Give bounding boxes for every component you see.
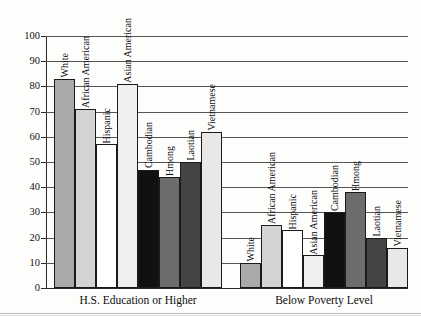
bar-label: Asian American [123, 18, 133, 83]
bar-label: Laotian [372, 206, 382, 237]
bar: Cambodian [324, 212, 345, 288]
y-tick-label: 50 [30, 157, 41, 168]
bar: Hmong [159, 177, 180, 288]
bar: Vietnamese [387, 248, 408, 288]
y-tick-label: 40 [30, 182, 41, 193]
bar-label: Asian American [309, 190, 319, 255]
bar: Cambodian [138, 170, 159, 288]
bar-label: White [60, 53, 70, 77]
bar-label: Hmong [351, 161, 361, 191]
bar-label: Vietnamese [207, 84, 217, 131]
divider [0, 313, 421, 314]
bar: Asian American [303, 255, 324, 288]
y-tick-label: 80 [30, 81, 41, 92]
group-caption: Below Poverty Level [240, 294, 408, 306]
bar: Laotian [180, 162, 201, 288]
y-axis-tick-labels: 0102030405060708090100 [0, 36, 40, 288]
bar-label: Hispanic [288, 194, 298, 230]
bar: Hispanic [96, 144, 117, 288]
bar-label: Hispanic [102, 108, 112, 144]
bar: African American [261, 225, 282, 288]
bar: Hmong [345, 192, 366, 288]
bar-label: Laotian [186, 130, 196, 161]
y-tick-label: 20 [30, 232, 41, 243]
y-tick-label: 60 [30, 132, 41, 143]
bar: Asian American [117, 84, 138, 288]
bar-label: Vietnamese [393, 200, 403, 247]
bar: White [240, 263, 261, 288]
y-tick-label: 0 [35, 283, 40, 294]
bar: Hispanic [282, 230, 303, 288]
y-tick-label: 90 [30, 56, 41, 67]
bar-series: WhiteAfrican AmericanHispanicAsian Ameri… [46, 36, 408, 288]
group-caption: H.S. Education or Higher [54, 294, 222, 306]
y-tick-label: 100 [24, 31, 40, 42]
bar-label: African American [81, 36, 91, 108]
bar-label: Cambodian [330, 165, 340, 211]
bar: Laotian [366, 238, 387, 288]
bar-chart: 0102030405060708090100 WhiteAfrican Amer… [0, 0, 421, 316]
y-tick-label: 70 [30, 106, 41, 117]
bar-label: White [246, 237, 256, 261]
bar-label: Hmong [165, 146, 175, 176]
bar: African American [75, 109, 96, 288]
bar: White [54, 79, 75, 288]
x-axis-line [46, 288, 408, 289]
y-tick-label: 30 [30, 207, 41, 218]
y-tick-label: 10 [30, 258, 41, 269]
bar: Vietnamese [201, 132, 222, 288]
plot-area: WhiteAfrican AmericanHispanicAsian Ameri… [46, 36, 408, 288]
bar-label: African American [267, 152, 277, 224]
bar-label: Cambodian [144, 122, 154, 168]
